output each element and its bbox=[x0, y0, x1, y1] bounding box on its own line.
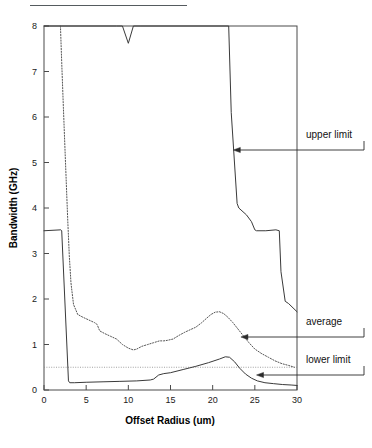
annotation-arrowhead-upper-limit bbox=[233, 147, 240, 152]
series-lower-limit bbox=[44, 230, 297, 386]
annotation-label-upper-limit: upper limit bbox=[306, 129, 352, 140]
x-tick-label: 5 bbox=[84, 395, 89, 405]
y-tick-label: 2 bbox=[32, 294, 37, 304]
y-axis-title: Bandwidth (GHz) bbox=[8, 168, 19, 249]
y-tick-label: 6 bbox=[32, 112, 37, 122]
annotation-group: upper limitaveragelower limit bbox=[233, 129, 364, 378]
x-tick-label: 25 bbox=[250, 395, 260, 405]
annotation-label-lower-limit: lower limit bbox=[306, 354, 351, 365]
annotation-leader-upper-limit bbox=[239, 141, 364, 150]
x-axis-tick-labels: 051015202530 bbox=[41, 395, 302, 405]
y-tick-label: 8 bbox=[32, 21, 37, 31]
x-axis-ticks bbox=[44, 385, 297, 390]
bandwidth-vs-offset-radius-chart: 012345678 051015202530 upper limitaverag… bbox=[0, 0, 372, 448]
series-average bbox=[60, 26, 294, 367]
annotation-label-average: average bbox=[306, 316, 343, 327]
plot-frame bbox=[44, 26, 297, 390]
y-tick-label: 0 bbox=[32, 385, 37, 395]
x-axis-title: Offset Radius (um) bbox=[125, 415, 214, 426]
x-tick-label: 30 bbox=[292, 395, 302, 405]
y-tick-label: 7 bbox=[32, 67, 37, 77]
y-tick-label: 4 bbox=[32, 203, 37, 213]
annotation-leader-average bbox=[247, 328, 364, 337]
y-tick-label: 5 bbox=[32, 158, 37, 168]
x-tick-label: 20 bbox=[208, 395, 218, 405]
figure-container: 012345678 051015202530 upper limitaverag… bbox=[0, 0, 372, 448]
x-tick-label: 10 bbox=[123, 395, 133, 405]
y-tick-label: 1 bbox=[32, 340, 37, 350]
y-axis-ticks bbox=[44, 26, 49, 390]
y-tick-label: 3 bbox=[32, 249, 37, 259]
series-upper-limit bbox=[44, 26, 297, 312]
annotation-arrowhead-average bbox=[241, 334, 248, 339]
annotation-arrowhead-lower-limit bbox=[257, 372, 264, 377]
x-tick-label: 0 bbox=[41, 395, 46, 405]
x-tick-label: 15 bbox=[165, 395, 175, 405]
y-axis-tick-labels: 012345678 bbox=[32, 21, 37, 395]
